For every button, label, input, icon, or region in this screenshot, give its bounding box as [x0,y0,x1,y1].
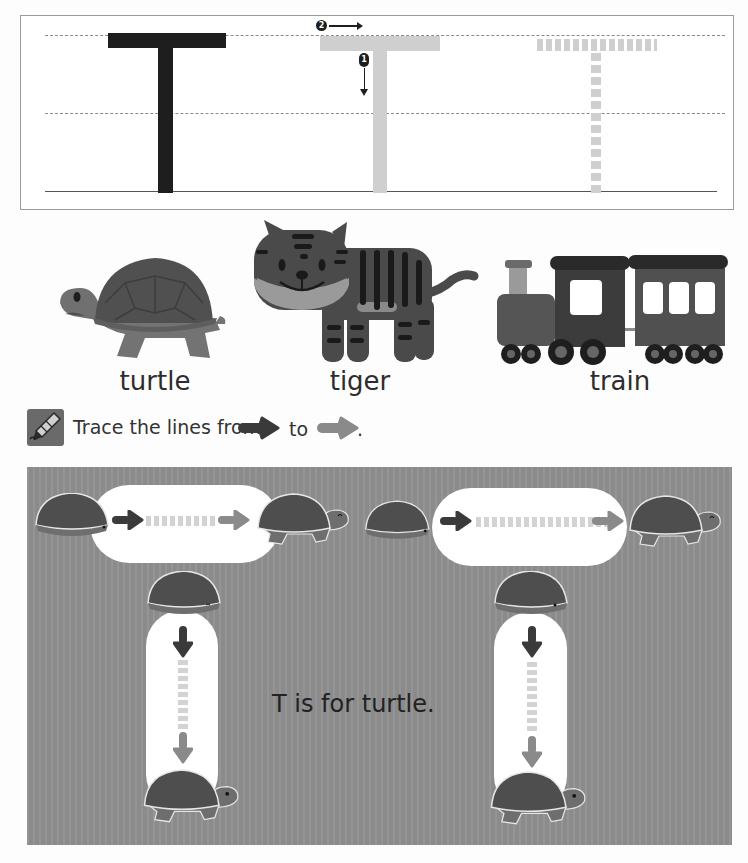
turtle-end-h1 [252,492,352,556]
end-arrow-v1 [173,732,193,768]
turtle-end-h2 [624,494,724,558]
guided-letter-t[interactable] [320,36,440,193]
turtle-shell-icon [146,571,222,621]
turtle-icon [482,770,592,832]
turtle-picture [55,258,230,363]
train-picture [495,250,730,368]
stroke-1-arrowhead-icon [360,89,368,96]
instruction-text-after: . [357,418,363,440]
turtle-icon [55,258,230,363]
model-letter-t [108,33,226,193]
crayon-icon [27,409,64,446]
panel-caption: T is for turtle. [272,690,435,718]
word-tiger: tiger [285,366,435,396]
turtle-shell-icon [34,493,114,543]
trace-line-v2[interactable] [527,662,537,732]
word-train: train [545,366,695,396]
start-arrow-h2 [440,511,472,535]
stroke-2-arrow [329,25,359,27]
turtle-icon [252,492,352,552]
stroke-2-arrowhead-icon [357,22,363,30]
turtle-start-h2 [364,498,434,552]
turtle-end-v1 [135,768,245,834]
turtle-start-h1 [34,493,114,547]
turtle-start-v1 [146,571,222,625]
end-arrow-h2 [592,511,624,535]
train-icon [495,250,730,368]
turtle-shell-icon [364,498,434,548]
instruction-text-before: Trace the lines from [73,416,261,438]
instruction-text: Trace the lines from [73,416,261,438]
tiger-picture [252,220,482,365]
dotted-letter-t[interactable] [537,39,657,195]
trace-line-v1[interactable] [178,660,188,730]
start-arrow-v1 [173,626,193,662]
turtle-icon [135,768,245,830]
turtle-start-v2 [493,571,569,625]
tiger-icon [252,220,482,365]
turtle-shell-icon [493,571,569,621]
end-arrow-v2 [522,736,542,772]
stroke-1-arrow [364,68,366,90]
instruction-text-middle: to [289,418,308,440]
word-turtle: turtle [80,366,230,396]
turtle-end-v2 [482,770,592,836]
turtle-icon [624,494,724,554]
end-arrow-h1 [218,510,250,534]
start-arrow-h1 [112,510,144,534]
end-arrow-icon [317,416,359,444]
stroke-2-marker: 2 [316,20,327,31]
trace-line-h1[interactable] [146,516,216,526]
stroke-1-marker: 1 [359,53,369,67]
start-arrow-v2 [522,626,542,662]
start-arrow-icon [238,416,280,444]
